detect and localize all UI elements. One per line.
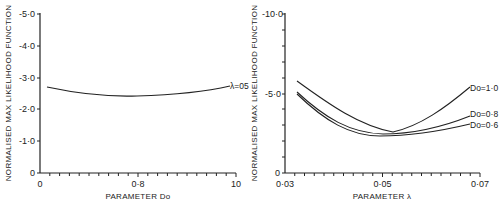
left-x-axis-title: PARAMETER Do: [105, 192, 170, 201]
right-x-tick-label: 0·07: [471, 179, 489, 189]
left-y-axis-title: NORMALISED MAX LIKELIHOOD FUNCTION: [4, 5, 13, 181]
series-label-do-0-6: Do=0·6: [470, 120, 498, 130]
right-y-tick-label: 0: [275, 168, 280, 178]
right-y-axis-title: NORMALISED MAX LIKELIHOOD FUNCTION: [250, 5, 259, 181]
left-y-tick-label: -1·0: [19, 136, 35, 146]
left-y-tick-label: 0: [30, 168, 35, 178]
figure: -5·0 -4·0 -3·0 -2·0 -1·0 0 0 0·8 10 PARA…: [0, 0, 502, 207]
right-x-axis-title: PARAMETER λ: [353, 192, 412, 201]
left-series-line: [47, 86, 230, 96]
left-x-tick-label: 0: [37, 179, 42, 189]
right-y-tick-label: -5·0: [265, 89, 281, 99]
right-x-tick-label: 0·03: [276, 179, 294, 189]
left-y-tick-label: -3·0: [19, 73, 35, 83]
series-label-do-1-0: Do=1·0: [470, 83, 498, 93]
right-chart: -10·0 -5·0 0 0·03 0·05 0·07 PARAMETER λ …: [250, 5, 498, 201]
series-line-do-0-8: [297, 92, 470, 134]
left-x-tick-label: 10: [231, 179, 241, 189]
series-label-do-0-8: Do=0·8: [470, 109, 498, 119]
left-chart: -5·0 -4·0 -3·0 -2·0 -1·0 0 0 0·8 10 PARA…: [4, 5, 249, 201]
left-y-tick-label: -2·0: [19, 104, 35, 114]
left-series-label: λ=05: [230, 81, 249, 91]
series-line-do-1-0: [297, 81, 470, 132]
right-x-tick-label: 0·05: [373, 179, 391, 189]
left-y-tick-label: -5·0: [19, 9, 35, 19]
right-y-tick-label: -10·0: [262, 9, 283, 19]
left-y-tick-label: -4·0: [19, 41, 35, 51]
left-x-tick-label: 0·8: [131, 179, 144, 189]
